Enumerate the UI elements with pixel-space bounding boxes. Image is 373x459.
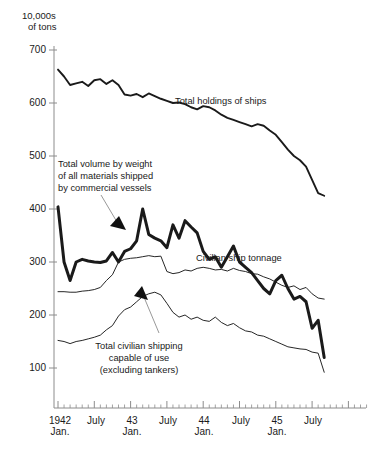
leader-total-volume bbox=[101, 195, 117, 222]
leader-arrow-total-volume bbox=[110, 216, 126, 230]
chart-series-group bbox=[58, 70, 324, 373]
series-line-3 bbox=[58, 292, 324, 372]
series-line-1 bbox=[58, 207, 324, 358]
chart-canvas bbox=[0, 0, 373, 459]
chart-figure: 10,000sof tons 700 600 500 400 300 200 1… bbox=[0, 0, 373, 459]
leader-arrow-civilian-capable bbox=[134, 286, 148, 300]
annotation-leaders bbox=[101, 195, 159, 333]
series-line-0 bbox=[58, 70, 324, 196]
chart-axes bbox=[49, 46, 367, 408]
